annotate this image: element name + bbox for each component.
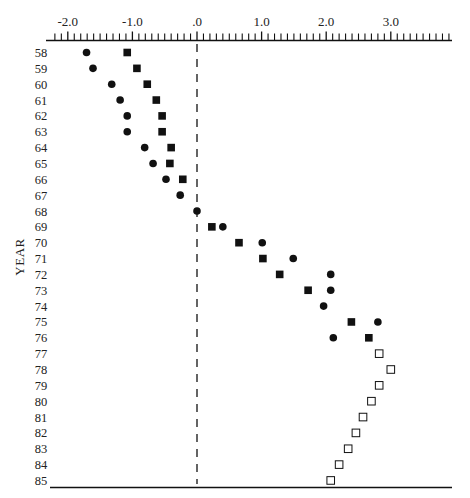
open-square-marker <box>368 397 376 405</box>
filled-circle-marker <box>123 112 131 120</box>
filled-square-marker <box>166 160 174 168</box>
filled-circle-marker <box>258 239 266 247</box>
scatter-chart: -2.0-1.0.01.02.03.0 58596061626364656667… <box>0 0 470 498</box>
year-label: 84 <box>35 458 48 472</box>
year-label: 59 <box>35 62 48 76</box>
filled-square-marker <box>123 49 131 57</box>
year-label: 76 <box>35 331 48 345</box>
filled-square-marker <box>143 80 151 88</box>
year-label: 63 <box>35 125 48 139</box>
filled-circle-marker <box>176 191 184 199</box>
year-label: 78 <box>35 363 48 377</box>
filled-square-marker <box>179 176 187 184</box>
open-square-marker <box>359 413 367 421</box>
year-label: 71 <box>35 252 48 266</box>
filled-circle-marker <box>123 128 131 136</box>
data-points <box>83 49 395 485</box>
open-square-marker <box>327 477 335 485</box>
open-square-marker <box>344 445 352 453</box>
year-label: 80 <box>35 395 48 409</box>
filled-circle-marker <box>330 334 338 342</box>
filled-circle-marker <box>141 144 149 152</box>
filled-square-marker <box>304 286 312 294</box>
filled-circle-marker <box>219 223 227 231</box>
x-tick-label: -1.0 <box>122 14 143 29</box>
year-label: 69 <box>35 220 48 234</box>
filled-circle-marker <box>327 286 335 294</box>
year-label: 83 <box>35 442 48 456</box>
filled-circle-marker <box>116 96 124 104</box>
filled-square-marker <box>348 318 356 326</box>
x-axis-top <box>46 32 452 41</box>
filled-square-marker <box>208 223 216 231</box>
year-label: 60 <box>35 78 48 92</box>
year-label: 74 <box>35 300 48 314</box>
year-label: 67 <box>35 189 48 203</box>
year-label: 85 <box>35 474 48 488</box>
year-label: 70 <box>35 236 48 250</box>
filled-square-marker <box>158 128 166 136</box>
filled-square-marker <box>276 271 284 279</box>
year-label: 73 <box>35 284 48 298</box>
open-square-marker <box>387 366 395 374</box>
filled-circle-marker <box>327 271 335 279</box>
x-tick-label: 1.0 <box>253 14 269 29</box>
filled-square-marker <box>133 65 141 73</box>
year-label: 81 <box>35 411 48 425</box>
x-tick-label: 2.0 <box>318 14 334 29</box>
open-square-marker <box>352 429 360 437</box>
year-label: 72 <box>35 268 48 282</box>
filled-square-marker <box>153 96 161 104</box>
filled-square-marker <box>259 255 267 263</box>
year-label: 65 <box>35 157 48 171</box>
filled-circle-marker <box>374 318 382 326</box>
filled-circle-marker <box>162 176 170 184</box>
year-label: 77 <box>35 347 48 361</box>
year-label: 82 <box>35 426 48 440</box>
filled-circle-marker <box>83 49 91 57</box>
filled-circle-marker <box>108 80 116 88</box>
year-label: 64 <box>35 141 48 155</box>
x-tick-label: -2.0 <box>58 14 79 29</box>
filled-square-marker <box>235 239 243 247</box>
year-label: 66 <box>35 173 48 187</box>
filled-circle-marker <box>149 160 157 168</box>
x-axis-tick-labels: -2.0-1.0.01.02.03.0 <box>58 14 399 29</box>
year-label: 58 <box>35 46 48 60</box>
x-tick-label: .0 <box>192 14 202 29</box>
open-square-marker <box>335 461 343 469</box>
x-tick-label: 3.0 <box>383 14 399 29</box>
filled-square-marker <box>167 144 175 152</box>
y-axis-year-labels: 5859606162636465666768697071727374757677… <box>35 46 48 488</box>
year-label: 68 <box>35 205 48 219</box>
filled-circle-marker <box>89 65 97 73</box>
year-label: 61 <box>35 94 48 108</box>
y-axis-title: YEAR <box>12 238 27 275</box>
filled-circle-marker <box>193 207 201 215</box>
open-square-marker <box>375 350 383 358</box>
filled-circle-marker <box>320 302 328 310</box>
open-square-marker <box>375 382 383 390</box>
filled-square-marker <box>158 112 166 120</box>
year-label: 75 <box>35 315 48 329</box>
year-label: 62 <box>35 109 48 123</box>
filled-circle-marker <box>289 255 297 263</box>
year-label: 79 <box>35 379 48 393</box>
filled-square-marker <box>365 334 373 342</box>
